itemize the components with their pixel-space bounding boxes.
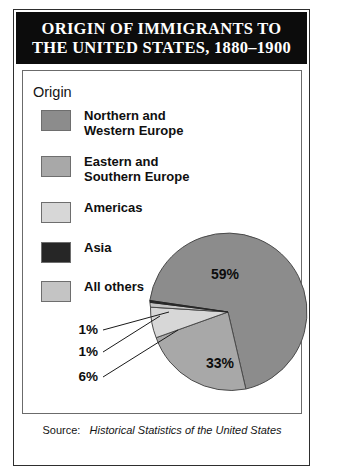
source-label: Source:: [42, 424, 80, 436]
source-title: Historical Statistics of the United Stat…: [90, 424, 282, 436]
pie-chart: [0, 0, 339, 476]
figure-chart-panel: ORIGIN OF IMMIGRANTS TO THE UNITED STATE…: [0, 0, 339, 476]
source-note: Source: Historical Statistics of the Uni…: [22, 424, 302, 436]
